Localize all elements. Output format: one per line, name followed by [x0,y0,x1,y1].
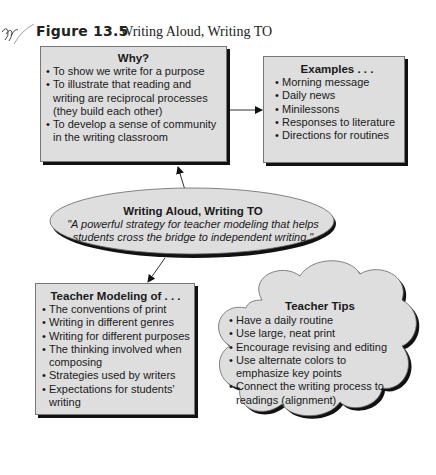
list-item: Directions for routines [274,129,400,142]
list-item: Morning message [274,76,400,89]
list-item: Expectations for students' writing [41,383,190,410]
list-item: Have a daily routine [228,314,398,327]
list-item: Connect the writing process to readings … [228,380,398,407]
why-box: Why? To show we write for a purpose To i… [40,46,227,162]
why-box-title: Why? [45,52,222,65]
tips-title: Teacher Tips [228,300,398,313]
center-ellipse-text: Writing Aloud, Writing TO "A powerful st… [52,205,334,244]
modeling-box: Teacher Modeling of . . . The convention… [35,283,195,415]
list-item: Strategies used by writers [41,369,190,382]
tips-cloud-text: Teacher Tips Have a daily routine Use la… [228,300,398,407]
modeling-list: The conventions of print Writing in diff… [41,303,190,409]
list-item: Writing in different genres [41,316,190,329]
list-item: The thinking involved when composing [41,343,190,370]
examples-box: Examples . . . Morning message Daily new… [263,56,405,163]
modeling-box-title: Teacher Modeling of . . . [41,290,190,303]
list-item: Use large, neat print [228,327,398,340]
list-item: Writing for different purposes [41,330,190,343]
tips-list: Have a daily routine Use large, neat pri… [228,314,398,407]
list-item: To illustrate that reading and writing a… [45,78,222,118]
list-item: Daily news [274,89,400,102]
list-item: To develop a sense of community in the w… [45,118,222,145]
ellipse-title: Writing Aloud, Writing TO [52,205,334,218]
ellipse-quote-line1: "A powerful strategy for teacher modelin… [52,218,334,231]
list-item: Encourage revising and editing [228,341,398,354]
examples-list: Morning message Daily news Minilessons R… [274,76,400,142]
list-item: Minilessons [274,103,400,116]
arrow-ellipse-to-modeling [148,258,165,282]
list-item: Responses to literature [274,116,400,129]
arrow-ellipse-to-why [178,167,185,190]
list-item: The conventions of print [41,303,190,316]
ellipse-quote-line2: students cross the bridge to independent… [52,231,334,244]
list-item: To show we write for a purpose [45,65,222,78]
examples-box-title: Examples . . . [274,63,400,76]
list-item: Use alternate colors to emphasize key po… [228,354,398,381]
why-list: To show we write for a purpose To illust… [45,65,222,145]
